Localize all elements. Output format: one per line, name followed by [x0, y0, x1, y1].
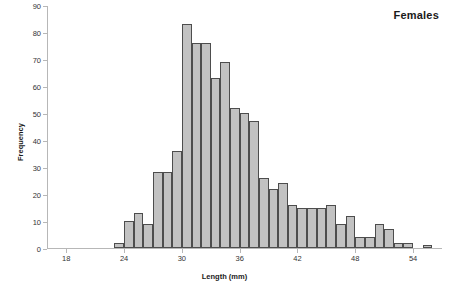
histogram-bar: [230, 108, 240, 248]
histogram-bar: [240, 113, 250, 248]
x-axis-title: Length (mm): [0, 272, 449, 281]
histogram-bar: [172, 151, 182, 248]
x-tick: [413, 249, 414, 253]
y-tick: [43, 6, 47, 7]
x-tick-label: 24: [120, 254, 128, 263]
histogram-bar: [375, 224, 385, 248]
y-tick-label: 80: [33, 29, 41, 38]
histogram-chart: Females Frequency 0102030405060708090 18…: [0, 0, 449, 284]
histogram-bar: [259, 178, 269, 248]
y-tick-label: 0: [37, 245, 41, 254]
y-tick-label: 70: [33, 56, 41, 65]
histogram-bar: [355, 237, 365, 248]
histogram-bar: [384, 229, 394, 248]
x-tick-label: 42: [293, 254, 301, 263]
histogram-bar: [365, 237, 375, 248]
histogram-bar: [307, 208, 317, 249]
y-tick-label: 30: [33, 164, 41, 173]
histogram-bar: [192, 43, 202, 248]
histogram-bar: [143, 224, 153, 248]
x-tick-label: 36: [236, 254, 244, 263]
plot-area: 0102030405060708090 18243036424854: [47, 6, 442, 249]
histogram-bar: [153, 172, 163, 248]
y-tick: [43, 33, 47, 34]
y-tick: [43, 141, 47, 142]
histogram-bar: [317, 208, 327, 249]
y-axis-title: Frequency: [16, 123, 25, 161]
histogram-bar: [211, 78, 221, 248]
x-tick: [182, 249, 183, 253]
histogram-bar: [394, 243, 404, 248]
histogram-bar: [249, 121, 259, 248]
histogram-bar: [114, 243, 124, 248]
x-tick-label: 18: [62, 254, 70, 263]
x-axis-line: [47, 248, 442, 249]
histogram-bar: [346, 216, 356, 248]
histogram-bar: [336, 224, 346, 248]
x-tick-label: 54: [409, 254, 417, 263]
x-tick: [66, 249, 67, 253]
histogram-bar: [220, 62, 230, 248]
y-tick: [43, 168, 47, 169]
x-tick: [297, 249, 298, 253]
y-tick: [43, 222, 47, 223]
histogram-bar: [297, 208, 307, 249]
y-tick: [43, 60, 47, 61]
y-tick: [43, 114, 47, 115]
y-tick: [43, 249, 47, 250]
histogram-bar: [124, 221, 134, 248]
x-tick: [124, 249, 125, 253]
y-tick: [43, 195, 47, 196]
y-tick-label: 50: [33, 110, 41, 119]
x-tick: [240, 249, 241, 253]
x-tick-label: 48: [351, 254, 359, 263]
histogram-bar: [288, 205, 298, 248]
histogram-bar: [182, 24, 192, 248]
y-tick-label: 90: [33, 2, 41, 11]
histogram-bar: [163, 172, 173, 248]
histogram-bar: [134, 213, 144, 248]
x-tick-label: 30: [178, 254, 186, 263]
histogram-bar: [269, 189, 279, 248]
y-tick-label: 10: [33, 218, 41, 227]
y-tick-label: 20: [33, 191, 41, 200]
x-tick: [355, 249, 356, 253]
y-tick-label: 60: [33, 83, 41, 92]
histogram-bar: [278, 183, 288, 248]
histogram-bar: [326, 205, 336, 248]
y-tick-label: 40: [33, 137, 41, 146]
histogram-bar: [423, 245, 433, 248]
y-axis-line: [47, 6, 48, 249]
histogram-bar: [201, 43, 211, 248]
histogram-bar: [403, 243, 413, 248]
y-tick: [43, 87, 47, 88]
